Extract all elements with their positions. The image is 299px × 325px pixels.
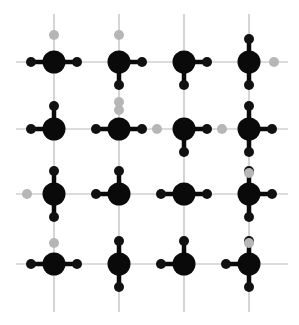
satellite-dot-n44-down-active <box>244 282 254 292</box>
vertex-node-n11 <box>43 51 66 74</box>
satellite-dot-n41-right-active <box>72 259 82 269</box>
satellite-dot-n23-down-active <box>179 147 189 157</box>
satellite-dot-n31-left-inactive <box>22 189 32 199</box>
satellite-dot-n21-up-active <box>49 101 59 111</box>
lattice-figure <box>0 0 299 325</box>
satellite-dot-n34-down-active <box>244 212 254 222</box>
satellite-dot-n14-down-active <box>244 80 254 90</box>
satellite-dot-n14-right-inactive <box>269 57 279 67</box>
satellite-dot-n42-down-active <box>114 282 124 292</box>
satellite-dot-n12-right-active <box>137 57 147 67</box>
vertex-node-n32 <box>108 183 131 206</box>
satellite-dot-n13-right-active <box>202 57 212 67</box>
satellite-dot-n11-left-active <box>26 57 36 67</box>
vertex-node-n24 <box>238 118 261 141</box>
satellite-dot-n42-up-active <box>114 236 124 246</box>
satellite-dot-n43-up-active <box>179 236 189 246</box>
satellite-dot-n22-right-active <box>137 124 147 134</box>
vertex-node-n12 <box>108 51 131 74</box>
satellite-dot-loose-2-inactive <box>114 105 124 115</box>
satellite-dot-n32-left-active <box>91 189 101 199</box>
vertex-node-n44 <box>238 253 261 276</box>
satellite-dot-n23-right-active <box>202 124 212 134</box>
vertex-node-n43 <box>173 253 196 276</box>
vertex-node-n14 <box>238 51 261 74</box>
vertex-node-n41 <box>43 253 66 276</box>
vertex-node-n13 <box>173 51 196 74</box>
satellite-dot-n31-down-active <box>49 212 59 222</box>
figure-background <box>0 0 299 325</box>
satellite-dot-n11-up-inactive <box>49 30 59 40</box>
satellite-dot-n32-up-active <box>114 166 124 176</box>
vertex-node-n23 <box>173 118 196 141</box>
satellite-dot-loose-4-inactive <box>244 238 254 248</box>
satellite-dot-n14-up-active <box>244 34 254 44</box>
satellite-dot-n12-up-inactive <box>114 30 124 40</box>
satellite-dot-n33-right-active <box>202 189 212 199</box>
satellite-dot-n31-up-active <box>49 166 59 176</box>
satellite-dot-n24-left-inactive <box>217 124 227 134</box>
satellite-dot-n43-left-active <box>156 259 166 269</box>
satellite-dot-n33-left-active <box>156 189 166 199</box>
satellite-dot-n24-down-active <box>244 147 254 157</box>
vertex-node-n34 <box>238 183 261 206</box>
satellite-dot-n44-left-active <box>221 259 231 269</box>
satellite-dot-n13-down-active <box>179 80 189 90</box>
satellite-dot-n23-left-inactive <box>152 124 162 134</box>
vertex-node-n33 <box>173 183 196 206</box>
lattice-canvas <box>0 0 299 325</box>
satellite-dot-n24-right-active <box>267 124 277 134</box>
satellite-dot-loose-1-inactive <box>49 238 59 248</box>
vertex-node-n42 <box>108 253 131 276</box>
satellite-dot-n34-right-active <box>267 189 277 199</box>
vertex-node-n31 <box>43 183 66 206</box>
satellite-dot-n24-up-active <box>244 101 254 111</box>
satellite-dot-loose-3-inactive <box>244 168 254 178</box>
satellite-dot-n41-left-active <box>26 259 36 269</box>
satellite-dot-n12-down-active <box>114 80 124 90</box>
vertex-node-n22 <box>108 118 131 141</box>
satellite-dot-n21-left-active <box>26 124 36 134</box>
satellite-dot-n11-right-active <box>72 57 82 67</box>
satellite-dot-n22-left-active <box>91 124 101 134</box>
vertex-node-n21 <box>43 118 66 141</box>
